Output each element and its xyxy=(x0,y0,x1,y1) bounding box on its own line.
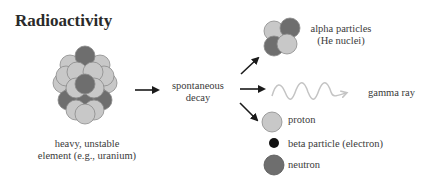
proton-icon xyxy=(262,112,282,132)
beta-particle-icon xyxy=(269,138,279,148)
alpha-particle-icon xyxy=(264,18,300,56)
alpha-label: alpha particles (He nuclei) xyxy=(300,23,382,47)
legend-beta-label: beta particle (electron) xyxy=(288,138,383,150)
source-label: heavy, unstable element (e.g., uranium) xyxy=(32,138,142,162)
source-label-line2: element (e.g., uranium) xyxy=(32,150,142,162)
alpha-arrow xyxy=(241,58,258,74)
alpha-label-line2: (He nuclei) xyxy=(300,35,382,47)
heavy-nucleus-icon xyxy=(53,46,117,124)
source-label-line1: heavy, unstable xyxy=(32,138,142,150)
process-label-line2: decay xyxy=(162,92,234,104)
beta-arrow xyxy=(240,103,257,120)
legend-neutron-label: neutron xyxy=(288,159,320,171)
alpha-label-line1: alpha particles xyxy=(300,23,382,35)
legend-proton-label: proton xyxy=(288,114,315,126)
gamma-wave-icon xyxy=(272,83,346,100)
process-label-line1: spontaneous xyxy=(162,80,234,92)
gamma-label: gamma ray xyxy=(368,87,415,99)
process-label: spontaneous decay xyxy=(162,80,234,104)
neutron-icon xyxy=(264,155,284,175)
